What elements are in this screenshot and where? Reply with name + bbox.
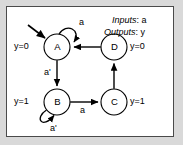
condition-label-A-to-B: a' xyxy=(44,68,51,77)
figure-canvas: Inputs: a Outputs: y A B C D y=0 y=1 y=1… xyxy=(0,0,183,145)
output-label-D: y=0 xyxy=(130,42,145,51)
condition-label-A-self-loop: a xyxy=(79,18,84,27)
state-label-A: A xyxy=(52,42,63,52)
state-diagram-svg xyxy=(0,0,183,145)
output-label-B: y=1 xyxy=(14,97,29,106)
outputs-value: y xyxy=(141,27,146,37)
output-label-A: y=0 xyxy=(14,42,29,51)
inputs-value: a xyxy=(142,15,147,25)
state-label-C: C xyxy=(109,97,120,107)
inputs-key: Inputs xyxy=(112,15,137,25)
outputs-label: Outputs: y xyxy=(104,28,145,37)
state-label-B: B xyxy=(52,97,63,107)
state-label-D: D xyxy=(109,42,120,52)
transition-arrows xyxy=(28,25,114,122)
output-label-C: y=1 xyxy=(130,97,145,106)
condition-label-B-to-C: a xyxy=(80,106,85,115)
outputs-key: Outputs xyxy=(104,27,136,37)
inputs-label: Inputs: a xyxy=(112,16,147,25)
condition-label-B-self-loop: a' xyxy=(50,124,57,133)
initial-state-arrow xyxy=(28,25,45,38)
